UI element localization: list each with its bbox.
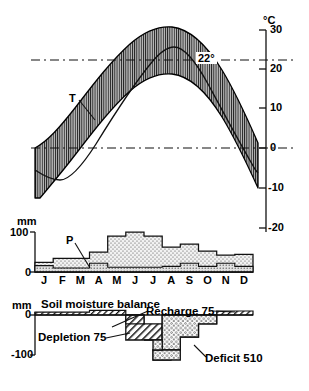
deficit-area-core — [162, 315, 217, 350]
month-tick-n-10: N — [217, 274, 235, 286]
soil-tick-label-0: 0 — [25, 308, 31, 320]
precip-tick-label-0: 0 — [25, 266, 31, 278]
temp-tick-label-minus10: -10 — [268, 181, 284, 193]
precip-tick-label-100: 100 — [10, 226, 28, 238]
recharge-label: Recharge 75 — [146, 305, 214, 317]
temperature-band-area — [35, 27, 258, 198]
month-tick-m-4: M — [108, 274, 126, 286]
month-tick-a-7: A — [162, 274, 180, 286]
month-tick-j-5: J — [126, 274, 144, 286]
climograph-figure: °C 30 20 10 0 -10 -20 22° T mm 100 0 P m… — [0, 0, 309, 391]
temp-tick-label-10: 10 — [270, 101, 282, 113]
temp-tick-label-30: 30 — [270, 23, 282, 35]
soil-moisture-title: Soil moisture balance — [41, 298, 160, 310]
month-tick-j-6: J — [144, 274, 162, 286]
isotherm-22-label: 22° — [196, 52, 217, 64]
month-axis: JFMAMJJASOND — [35, 274, 253, 286]
month-tick-d-11: D — [235, 274, 253, 286]
month-tick-f-1: F — [53, 274, 71, 286]
depletion-label: Depletion 75 — [38, 331, 106, 343]
temp-tick-label-20: 20 — [270, 62, 282, 74]
month-tick-s-8: S — [180, 274, 198, 286]
precipitation-panel — [30, 232, 253, 272]
month-tick-o-9: O — [199, 274, 217, 286]
temperature-panel — [31, 27, 296, 232]
temp-tick-label-0: 0 — [270, 141, 276, 153]
month-tick-a-3: A — [90, 274, 108, 286]
temperature-series-label: T — [69, 92, 76, 104]
deficit-area-trough — [153, 350, 180, 360]
depletion-deficit-join — [144, 340, 162, 350]
month-tick-j-0: J — [35, 274, 53, 286]
deficit-label: Deficit 510 — [205, 352, 263, 364]
soil-tick-label-minus100: -100 — [11, 348, 33, 360]
temp-tick-label-minus20: -20 — [268, 221, 284, 233]
precipitation-series-label: P — [66, 234, 73, 246]
month-tick-m-2: M — [71, 274, 89, 286]
